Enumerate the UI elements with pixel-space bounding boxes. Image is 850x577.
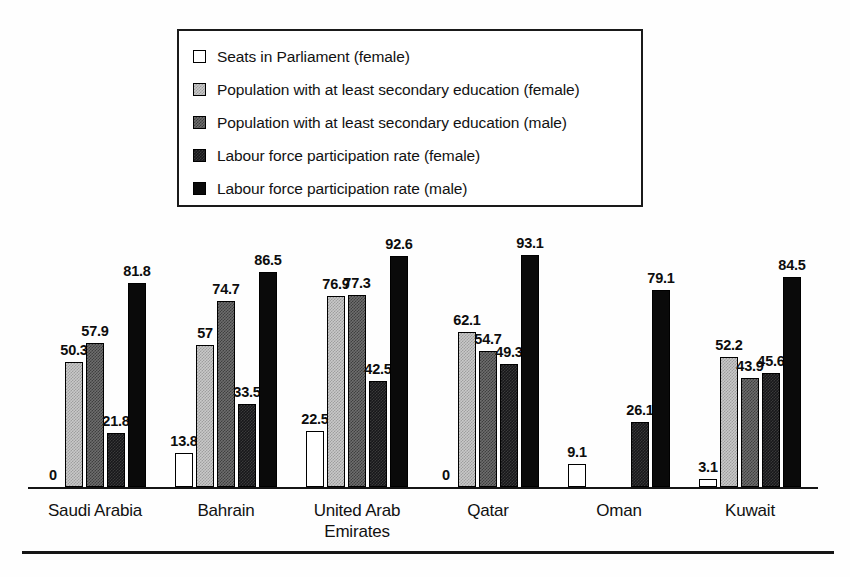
bar [107, 433, 125, 487]
plot-area: 050.357.921.881.813.85774.733.586.522.57… [0, 0, 850, 500]
bar [741, 378, 759, 487]
bar [327, 296, 345, 487]
bar [521, 255, 539, 487]
bar [369, 381, 387, 487]
bar-value-label: 79.1 [641, 270, 681, 286]
bar [458, 332, 476, 487]
bar-value-label: 52.2 [709, 337, 749, 353]
bar-value-label: 57.9 [75, 323, 115, 339]
bar-value-label: 84.5 [772, 257, 812, 273]
bar [479, 351, 497, 487]
bar [306, 431, 324, 487]
bar [500, 364, 518, 487]
bar-value-label: 92.6 [379, 236, 419, 252]
bar [390, 256, 408, 487]
bar-value-label: 74.7 [206, 281, 246, 297]
bar [720, 357, 738, 487]
bar [348, 295, 366, 487]
bar-value-label: 93.1 [510, 235, 550, 251]
bar-value-label: 77.3 [337, 275, 377, 291]
bar-value-label: 9.1 [557, 444, 597, 460]
bar-value-label: 86.5 [248, 252, 288, 268]
category-label-line: Kuwait [659, 500, 841, 521]
bar-value-label: 62.1 [447, 312, 487, 328]
bar [568, 464, 586, 487]
bar [238, 404, 256, 487]
category-label-kuwait: Kuwait [659, 500, 841, 521]
bar [128, 283, 146, 487]
bar [783, 277, 801, 487]
bar [699, 479, 717, 487]
bar [196, 345, 214, 487]
bar [65, 362, 83, 487]
bar [762, 373, 780, 487]
bar-value-label: 81.8 [117, 263, 157, 279]
bar [175, 453, 193, 487]
category-label-line: Emirates [266, 521, 448, 542]
bar [652, 290, 670, 487]
x-axis-baseline [28, 487, 818, 489]
footer-rule [22, 551, 834, 554]
chart-page: Seats in Parliament (female) Population … [0, 0, 850, 577]
bar [259, 272, 277, 487]
bar [631, 422, 649, 487]
